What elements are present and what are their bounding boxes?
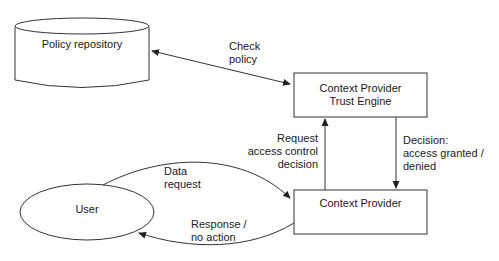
- response-label-line2: no action: [191, 231, 236, 244]
- decision-label-line3: denied: [403, 160, 436, 173]
- request-access-label-line1: Request: [240, 132, 318, 145]
- decision-label-line2: access granted /: [403, 147, 484, 160]
- check-policy-label-line2: policy: [229, 53, 257, 66]
- policy-repository-label: Policy repository: [15, 38, 149, 51]
- request-access-label-line2: access control: [240, 145, 318, 158]
- context-provider-label: Context Provider: [294, 197, 427, 210]
- check-policy-arrow: [152, 51, 290, 84]
- data-request-label-line2: request: [164, 178, 201, 191]
- request-access-label-line3: decision: [240, 158, 318, 171]
- policy-repository-cylinder: [15, 18, 149, 88]
- user-label: User: [55, 203, 119, 216]
- response-label-line1: Response /: [191, 218, 247, 231]
- check-policy-label-line1: Check: [229, 40, 260, 53]
- decision-label-line1: Decision:: [403, 134, 448, 147]
- trust-engine-label-line2: Trust Engine: [294, 95, 427, 108]
- trust-engine-label-line1: Context Provider: [294, 82, 427, 95]
- data-request-label-line1: Data: [164, 165, 187, 178]
